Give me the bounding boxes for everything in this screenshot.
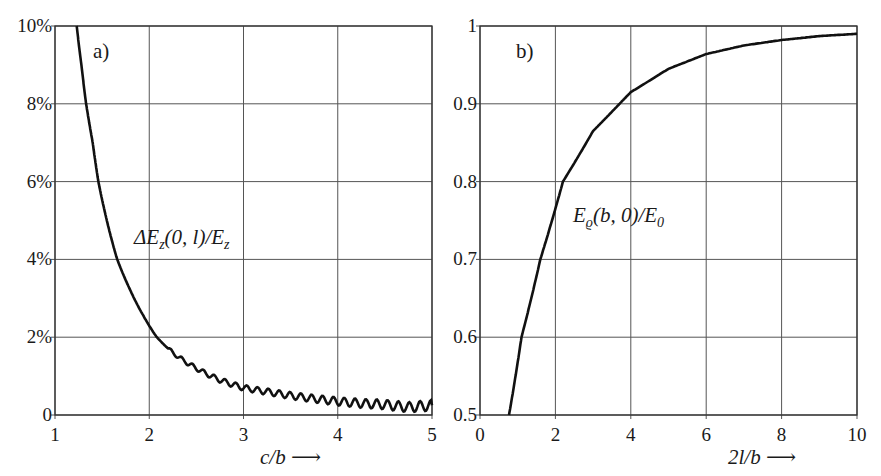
- panel-label-a: a): [93, 39, 109, 63]
- y-tick-label: 1: [468, 15, 478, 36]
- plot-frame-b: [480, 26, 857, 415]
- gridlines-b: [476, 26, 857, 419]
- y-tick-labels-b: 0.50.60.70.80.91: [453, 15, 477, 425]
- chart-panel-b: 0.50.60.70.80.91 0246810 b) Eϱ(b, 0)/E0 …: [453, 15, 866, 469]
- x-tick-label: 6: [701, 424, 711, 445]
- x-tick-label: 4: [333, 424, 343, 445]
- y-tick-label: 0.5: [453, 404, 477, 425]
- chart-panel-a: 02%4%6%8%10% 12345 a) ΔEz(0, l)/Ez c/b ⟶: [17, 15, 437, 469]
- x-tick-label: 2: [145, 424, 155, 445]
- x-tick-label: 4: [626, 424, 636, 445]
- x-tick-label: 5: [427, 424, 437, 445]
- x-tick-label: 3: [239, 424, 249, 445]
- x-tick-label: 10: [848, 424, 867, 445]
- panel-label-b: b): [516, 39, 534, 63]
- curve-e-rho: [509, 34, 857, 415]
- x-tick-label: 2: [551, 424, 561, 445]
- x-tick-labels-b: 0246810: [475, 424, 866, 445]
- y-tick-label: 0.9: [453, 93, 477, 114]
- y-tick-label: 0: [43, 404, 53, 425]
- y-tick-label: 0.8: [453, 171, 477, 192]
- x-tick-labels-a: 12345: [50, 424, 437, 445]
- x-axis-label-b: 2l/b ⟶: [728, 445, 796, 469]
- y-tick-label: 6%: [27, 171, 53, 192]
- y-tick-label: 10%: [17, 15, 52, 36]
- y-tick-label: 0.7: [453, 248, 477, 269]
- y-tick-labels-a: 02%4%6%8%10%: [17, 15, 52, 425]
- curve-delta-ez: [77, 26, 432, 412]
- y-tick-label: 4%: [27, 248, 53, 269]
- x-tick-label: 8: [777, 424, 787, 445]
- x-tick-label: 1: [50, 424, 60, 445]
- curve-label-a: ΔEz(0, l)/Ez: [133, 225, 230, 252]
- y-tick-label: 8%: [27, 93, 53, 114]
- y-tick-label: 0.6: [453, 326, 477, 347]
- figure: 02%4%6%8%10% 12345 a) ΔEz(0, l)/Ez c/b ⟶…: [0, 0, 881, 476]
- y-tick-label: 2%: [27, 326, 53, 347]
- x-tick-label: 0: [475, 424, 485, 445]
- curve-label-b: Eϱ(b, 0)/E0: [572, 203, 664, 230]
- x-axis-label-a: c/b ⟶: [260, 445, 321, 469]
